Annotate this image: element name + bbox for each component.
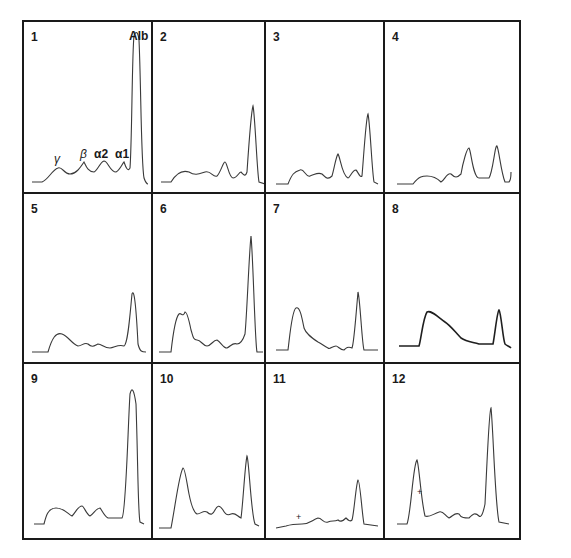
panel-5: 5 [24, 194, 151, 362]
plus-marker: + [417, 487, 422, 497]
trace-6 [153, 194, 264, 362]
electrophoresis-grid: 1 γ β α2 α1 Alb 2 3 4 5 6 [22, 20, 521, 540]
trace-1: γ β α2 α1 Alb [24, 22, 151, 192]
trace-10 [153, 364, 264, 538]
panel-3: 3 [266, 22, 383, 192]
trace-9 [24, 364, 151, 538]
panel-6: 6 [153, 194, 264, 362]
panel-7: 7 [266, 194, 383, 362]
panel-2: 2 [153, 22, 264, 192]
trace-11: + [266, 364, 383, 538]
panel-4: 4 [385, 22, 521, 192]
trace-12: + [385, 364, 521, 538]
beta-label: β [79, 147, 87, 161]
panel-8: 8 [385, 194, 521, 362]
trace-4 [385, 22, 521, 192]
trace-3 [266, 22, 383, 192]
trace-7 [266, 194, 383, 362]
panel-11: 11 + [266, 364, 383, 538]
plus-marker: + [296, 512, 301, 522]
panel-9: 9 [24, 364, 151, 538]
alpha2-label: α2 [94, 147, 108, 161]
trace-8 [385, 194, 521, 362]
panel-10: 10 [153, 364, 264, 538]
trace-5 [24, 194, 151, 362]
alpha1-label: α1 [115, 147, 129, 161]
trace-2 [153, 22, 264, 192]
panel-12: 12 + [385, 364, 521, 538]
panel-1: 1 γ β α2 α1 Alb [24, 22, 151, 192]
gamma-label: γ [54, 152, 61, 166]
albumin-label: Alb [129, 29, 148, 43]
